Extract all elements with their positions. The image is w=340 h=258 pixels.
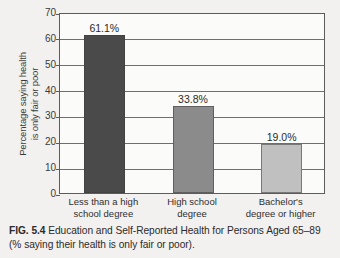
- x-axis-category-label: Bachelor'sdegree or higher: [236, 196, 325, 219]
- x-axis-category-label-line: school degree: [59, 208, 148, 220]
- x-axis-category-label: Less than a highschool degree: [59, 196, 148, 219]
- y-axis-tick-mark: [56, 14, 60, 15]
- figure-number: FIG. 5.4: [9, 225, 45, 236]
- x-axis-category-label-line: degree or higher: [236, 208, 325, 220]
- y-axis-tick-label: 60: [30, 34, 56, 44]
- y-axis-tick-mark: [56, 169, 60, 170]
- figure-caption: FIG. 5.4 Education and Self-Reported Hea…: [9, 224, 335, 251]
- bar-value-label: 33.8%: [163, 94, 223, 105]
- caption-text: Education and Self-Reported Health for P…: [9, 225, 321, 250]
- bar-value-label: 19.0%: [252, 132, 312, 143]
- x-axis-category-label-line: High school: [148, 196, 237, 208]
- bar[interactable]: [84, 35, 125, 193]
- bar-value-label: 61.1%: [74, 23, 134, 34]
- y-axis-tick-mark: [56, 65, 60, 66]
- bar[interactable]: [261, 144, 302, 193]
- bar[interactable]: [173, 106, 214, 193]
- x-axis-category-label-line: Bachelor's: [236, 196, 325, 208]
- y-axis-tick-label: 50: [30, 60, 56, 70]
- y-axis-tick-mark: [56, 39, 60, 40]
- y-axis-tick-label: 40: [30, 86, 56, 96]
- x-axis-category-label: High schooldegree: [148, 196, 237, 219]
- x-axis-category-label-line: degree: [148, 208, 237, 220]
- y-axis-title-line-1: Percentage saying health: [17, 9, 29, 199]
- x-axis-tick-labels: Less than a highschool degreeHigh school…: [59, 196, 325, 222]
- y-axis-tick-mark: [56, 117, 60, 118]
- y-axis-tick-mark: [56, 143, 60, 144]
- y-axis-tick-label: 20: [30, 137, 56, 147]
- figure-container: Percentage saying health is only fair or…: [0, 0, 340, 258]
- y-axis-tick-label: 10: [30, 163, 56, 173]
- y-axis-tick-labels: 010203040506070: [30, 6, 56, 202]
- y-axis-tick-label: 0: [30, 189, 56, 199]
- y-axis-tick-mark: [56, 91, 60, 92]
- x-axis-category-label-line: Less than a high: [59, 196, 148, 208]
- y-axis-tick-label: 70: [30, 8, 56, 18]
- y-axis-tick-label: 30: [30, 111, 56, 121]
- plot-area: 61.1%33.8%19.0%: [59, 13, 325, 194]
